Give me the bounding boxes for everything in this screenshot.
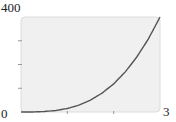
chart-plot	[0, 0, 176, 122]
plot-area	[21, 17, 160, 112]
